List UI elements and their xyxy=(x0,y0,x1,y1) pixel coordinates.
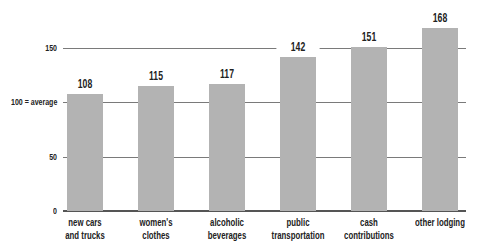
category-label: cashcontributions xyxy=(338,216,400,242)
bar-value-label: 142 xyxy=(276,40,319,54)
gridline xyxy=(63,157,466,158)
category-label-line: alcoholic xyxy=(196,216,258,229)
category-label-line: other lodging xyxy=(409,216,471,229)
category-label: other lodging xyxy=(409,216,471,229)
bar xyxy=(280,57,316,211)
gridline xyxy=(63,48,466,49)
bar-chart: 050100 = average150108new carsand trucks… xyxy=(0,0,479,251)
category-label-line: cash xyxy=(338,216,400,229)
category-label-line: beverages xyxy=(196,229,258,242)
category-label-line: and trucks xyxy=(54,229,116,242)
bar-value-label: 151 xyxy=(347,30,390,44)
bar xyxy=(138,86,174,211)
category-label: new carsand trucks xyxy=(54,216,116,242)
category-label: publictransportation xyxy=(267,216,329,242)
y-tick-label: 50 xyxy=(49,152,57,162)
bar xyxy=(351,47,387,211)
x-axis-baseline xyxy=(63,210,466,212)
category-label-line: contributions xyxy=(338,229,400,242)
category-label-line: women's clothes xyxy=(125,216,187,242)
category-label-line: new cars xyxy=(54,216,116,229)
bar-value-label: 108 xyxy=(63,77,106,91)
y-tick-label: 150 xyxy=(45,43,57,53)
category-label-line: public xyxy=(267,216,329,229)
bar-value-label: 168 xyxy=(418,11,461,25)
bar-value-label: 117 xyxy=(205,67,248,81)
bar xyxy=(422,28,458,211)
bar-value-label: 115 xyxy=(134,69,177,83)
bar xyxy=(209,84,245,211)
bar xyxy=(67,94,103,211)
category-label: alcoholicbeverages xyxy=(196,216,258,242)
category-label-line: transportation xyxy=(267,229,329,242)
gridline xyxy=(63,102,466,103)
category-label: women's clothes xyxy=(125,216,187,242)
y-tick-label: 0 xyxy=(53,206,57,216)
y-tick-label: 100 = average xyxy=(11,97,57,107)
